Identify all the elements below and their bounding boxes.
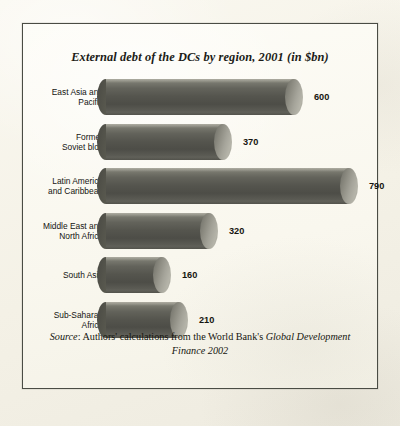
bar-row: Middle East andNorth Africa320 [23, 210, 377, 252]
bar-category-label: FormerSoviet bloc [29, 131, 103, 152]
bar-value-label: 790 [369, 181, 384, 191]
bar-cylinder [106, 213, 218, 249]
bar-value-label: 160 [182, 270, 197, 280]
bar-category-label: South Asia [29, 270, 103, 280]
bar-cylinder [106, 257, 171, 293]
source-body: Authors' calculations from the World Ban… [82, 331, 265, 342]
bar-body [106, 124, 223, 160]
bar-row: FormerSoviet bloc370 [23, 121, 377, 163]
bar-right-end-cap [200, 213, 218, 249]
bar-value-label: 370 [243, 137, 258, 147]
bar-row: Latin Americaand Caribbean790 [23, 165, 377, 207]
bar-right-end-cap [285, 79, 303, 115]
bar-cylinder [106, 168, 358, 204]
bar-body [106, 213, 209, 249]
bar-value-label: 320 [229, 226, 244, 236]
bar-right-end-cap [340, 168, 358, 204]
bar-right-end-cap [214, 124, 232, 160]
bar-cylinder [106, 124, 232, 160]
bar-category-label: East Asia andPacific [29, 87, 103, 108]
bar-category-label: Latin Americaand Caribbean [29, 176, 103, 197]
bar-category-label: Sub-SaharanAfrica [29, 309, 103, 330]
bar-category-label: Middle East andNorth Africa [29, 220, 103, 241]
bar-body [106, 168, 349, 204]
bar-body [106, 79, 294, 115]
source-publication-year: 2002 [205, 345, 228, 356]
bar-right-end-cap [153, 257, 171, 293]
bar-value-label: 210 [199, 315, 214, 325]
bar-value-label: 600 [314, 92, 329, 102]
source-label: Source [50, 331, 78, 342]
chart-title: External debt of the DCs by region, 2001… [23, 50, 377, 65]
bar-row: South Asia160 [23, 254, 377, 296]
figure-frame: External debt of the DCs by region, 2001… [22, 23, 378, 389]
bar-cylinder [106, 79, 303, 115]
source-note: Source: Authors' calculations from the W… [49, 330, 351, 358]
bar-row: East Asia andPacific600 [23, 76, 377, 118]
bar-chart-plot-area: East Asia andPacific600FormerSoviet bloc… [23, 76, 377, 326]
